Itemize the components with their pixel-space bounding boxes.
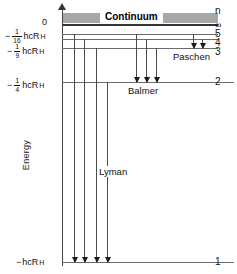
arrowhead-icon (144, 77, 150, 83)
arrowhead-icon (200, 43, 206, 49)
fraction-numerator: 1 (14, 43, 20, 50)
energy-tick-n2: − 1 4 hcRH (7, 77, 44, 94)
level-line-n-inf (62, 24, 218, 26)
fraction-numerator: 1 (14, 77, 20, 84)
series-label-balmer: Balmer (126, 85, 160, 96)
n-label-3: 3 (215, 46, 235, 57)
energy-tick-n3: − 1 9 hcRH (7, 43, 44, 60)
transition-arrow-balmer-3 (156, 48, 157, 82)
energy-axis-arrow-icon (58, 3, 66, 10)
level-line-n-1 (62, 262, 234, 263)
energy-tick-n1: − hcRH (16, 257, 44, 267)
unit-hcr: hcR (22, 80, 38, 90)
fraction-denominator: 4 (14, 87, 20, 94)
n-label-2: 2 (215, 76, 235, 87)
transition-arrow-lyman-2 (84, 39, 85, 262)
transition-arrow-balmer-2 (146, 39, 147, 82)
arrowhead-icon (105, 257, 111, 263)
unit-hcr: hcR (24, 31, 40, 41)
unit-hcr: hcR (22, 257, 38, 267)
arrowhead-icon (134, 77, 140, 83)
n-label-1: 1 (215, 256, 235, 267)
arrowhead-icon (72, 257, 78, 263)
unit-hcr: hcR (22, 46, 38, 56)
transition-arrow-lyman-3 (96, 48, 97, 262)
transition-arrow-balmer-1 (136, 34, 137, 82)
arrowhead-icon (154, 77, 160, 83)
energy-level-diagram: Energy Continuum n ∞ 5 4 3 2 1 0 − 1 16 … (0, 0, 237, 274)
transition-arrow-paschen-1 (193, 34, 194, 48)
fraction-denominator: 9 (14, 53, 20, 60)
minus-sign: − (7, 80, 12, 90)
energy-tick-zero: 0 (42, 17, 47, 27)
minus-sign: − (16, 257, 21, 267)
energy-axis-label: Energy (21, 115, 31, 195)
series-label-paschen: Paschen (171, 51, 212, 62)
arrowhead-icon (82, 257, 88, 263)
minus-sign: − (5, 31, 10, 41)
n-column-header: n (215, 5, 235, 16)
series-label-lyman: Lyman (97, 166, 129, 177)
level-line-n-5 (62, 34, 218, 35)
fraction-numerator: 1 (14, 28, 20, 35)
unit-subscript-h: H (41, 33, 46, 40)
unit-subscript-h: H (39, 48, 44, 55)
transition-arrow-lyman-1 (74, 34, 75, 262)
energy-axis (62, 8, 63, 266)
energy-tick-zero-text: 0 (42, 17, 47, 27)
minus-sign: − (7, 46, 12, 56)
transition-arrow-paschen-2 (202, 39, 203, 48)
arrowhead-icon (191, 43, 197, 49)
fraction-one-ninth: 1 9 (14, 43, 20, 60)
fraction-one-fourth: 1 4 (14, 77, 20, 94)
continuum-label: Continuum (100, 10, 163, 24)
level-line-n-4 (62, 39, 218, 40)
arrowhead-icon (94, 257, 100, 263)
unit-subscript-h: H (39, 82, 44, 89)
unit-subscript-h: H (39, 259, 44, 266)
